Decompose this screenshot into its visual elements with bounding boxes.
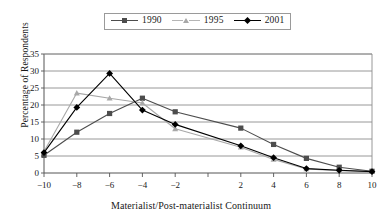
y-tick-label: 30 xyxy=(30,66,40,76)
y-tick-label: 25 xyxy=(30,83,40,93)
series-1995 xyxy=(41,90,375,174)
data-point-marker xyxy=(107,111,112,116)
x-tick-label: −4 xyxy=(138,180,148,190)
x-axis-title: Materialist/Post-materialist Continuum xyxy=(0,200,382,211)
x-tick-label: 10 xyxy=(368,180,378,190)
y-tick-label: 5 xyxy=(35,151,40,161)
x-tick-label: 6 xyxy=(304,180,309,190)
y-tick-label: 20 xyxy=(30,100,40,110)
y-tick-label: 15 xyxy=(30,117,40,127)
y-tick-label: 35 xyxy=(30,49,40,59)
y-tick-label: 0 xyxy=(35,168,40,178)
x-tick-label: 8 xyxy=(337,180,342,190)
x-tick-label: −2 xyxy=(170,180,180,190)
x-tick-label: 4 xyxy=(271,180,276,190)
x-tick-label: −10 xyxy=(37,180,52,190)
series-2001 xyxy=(41,70,376,175)
data-point-marker xyxy=(304,156,309,161)
chart-figure: 1990 1995 2001 Percentage of Respondents… xyxy=(0,0,382,221)
data-point-marker xyxy=(271,142,276,147)
x-tick-label: −8 xyxy=(72,180,82,190)
plot-svg: 05101520253035−10−8−6−4−2246810 xyxy=(0,0,382,221)
data-point-marker xyxy=(74,130,79,135)
data-point-marker xyxy=(74,90,80,95)
data-point-marker xyxy=(173,109,178,114)
x-tick-label: −6 xyxy=(105,180,115,190)
y-tick-label: 10 xyxy=(30,134,40,144)
x-tick-label: 2 xyxy=(239,180,244,190)
plot-area: 05101520253035−10−8−6−4−2246810 xyxy=(0,0,382,221)
data-point-marker xyxy=(238,126,243,131)
